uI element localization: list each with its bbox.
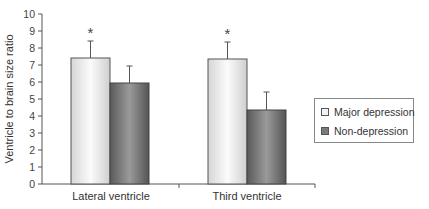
x-category-label: Third ventricle (212, 190, 281, 202)
legend-item-major-depression: Major depression (321, 105, 415, 119)
y-tick-label: 3 (29, 127, 35, 139)
legend: Major depression Non-depression (314, 98, 414, 143)
legend-label: Major depression (334, 106, 415, 118)
significance-asterisk: * (88, 24, 94, 41)
y-tick-label: 0 (29, 178, 35, 190)
significance-asterisk: * (225, 25, 231, 42)
y-tick-label: 8 (29, 42, 35, 54)
y-tick-label: 10 (23, 8, 35, 20)
y-tick-label: 6 (29, 76, 35, 88)
x-axis (42, 184, 315, 188)
y-tick-label: 9 (29, 25, 35, 37)
bar-lateral-non-depression (110, 83, 149, 184)
y-tick-label: 2 (29, 144, 35, 156)
y-tick-label: 5 (29, 93, 35, 105)
bar-lateral-major-depression (71, 58, 110, 184)
y-tick-label: 7 (29, 59, 35, 71)
bars: * * (71, 24, 286, 184)
legend-swatch-light (321, 108, 329, 116)
legend-label: Non-depression (334, 125, 408, 137)
y-tick-label: 1 (29, 161, 35, 173)
legend-swatch-dark (321, 127, 329, 135)
y-axis-label: Ventricle to brain size ratio (3, 34, 15, 163)
bar-third-major-depression (208, 59, 247, 184)
legend-item-non-depression: Non-depression (321, 124, 408, 138)
bar-third-non-depression (247, 110, 286, 184)
y-tick-label: 4 (29, 110, 35, 122)
y-axis: 012345678910 (23, 8, 42, 190)
x-category-label: Lateral ventricle (72, 190, 150, 202)
